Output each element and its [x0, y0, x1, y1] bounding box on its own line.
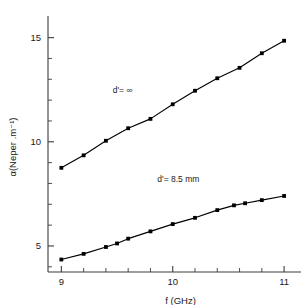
series-label-1: d'= ∞: [113, 85, 133, 95]
data-point: [126, 237, 130, 241]
data-point: [149, 117, 153, 121]
series-2: [59, 194, 286, 261]
series-annotations: d'= ∞d'= 8.5 mm: [113, 85, 200, 185]
data-point: [82, 153, 86, 157]
data-point: [171, 102, 175, 106]
x-tick-label: 10: [167, 276, 178, 287]
x-axis-tick-labels: 91011: [59, 276, 289, 287]
data-point: [149, 229, 153, 233]
data-point: [59, 258, 63, 262]
data-point: [126, 126, 130, 130]
data-point: [260, 198, 264, 202]
data-point: [232, 203, 236, 207]
data-point: [104, 139, 108, 143]
series-1: [59, 39, 286, 170]
data-point: [243, 201, 247, 205]
data-point: [238, 66, 242, 70]
attenuation-frequency-plot: 91011 51015 d'= ∞d'= 8.5 mm f (GHz) α(Ne…: [0, 0, 306, 305]
x-tick-label: 9: [59, 276, 64, 287]
y-tick-label: 10: [30, 136, 41, 147]
y-axis-tick-labels: 51015: [30, 32, 41, 251]
y-tick-label: 15: [30, 32, 41, 43]
x-axis-ticks: [61, 266, 284, 272]
chart-figure: 91011 51015 d'= ∞d'= 8.5 mm f (GHz) α(Ne…: [0, 0, 306, 305]
x-axis-title: f (GHz): [165, 295, 196, 305]
data-point: [82, 252, 86, 256]
data-point: [193, 89, 197, 93]
data-point: [193, 216, 197, 220]
x-tick-label: 11: [279, 276, 289, 287]
series-label-2: d'= 8.5 mm: [157, 174, 199, 184]
data-point: [215, 208, 219, 212]
data-series-group: [59, 39, 286, 262]
data-point: [104, 245, 108, 249]
data-point: [282, 39, 286, 43]
data-point: [215, 76, 219, 80]
data-point: [115, 242, 119, 246]
data-point: [59, 166, 63, 170]
data-point: [171, 222, 175, 226]
data-point: [282, 194, 286, 198]
series-line: [61, 196, 284, 260]
data-point: [260, 51, 264, 55]
y-tick-label: 5: [36, 240, 41, 251]
y-axis-ticks: [48, 38, 54, 267]
y-axis-title: α(Neper .m⁻¹): [7, 117, 18, 176]
